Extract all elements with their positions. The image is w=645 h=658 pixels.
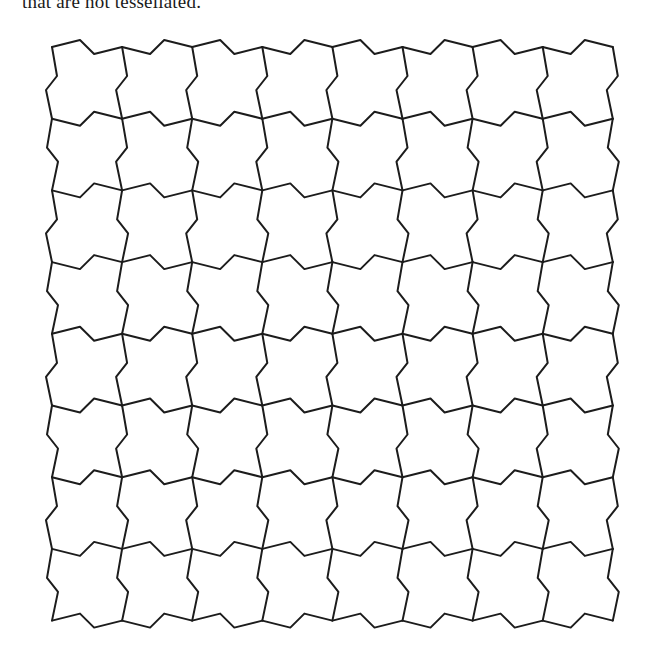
tile-edge-horizontal <box>543 255 613 269</box>
tile-edge-vertical <box>187 549 198 621</box>
tile-edge-vertical <box>256 47 267 119</box>
tile-edge-horizontal <box>332 614 402 628</box>
tile-edge-vertical <box>256 334 267 406</box>
tile-edge-horizontal <box>403 614 473 628</box>
tile-edge-vertical <box>397 119 408 191</box>
tile-edge-horizontal <box>122 614 192 628</box>
tile-edge-horizontal <box>332 399 402 413</box>
tile-edge-vertical <box>538 549 549 621</box>
tile-edge-horizontal <box>403 327 473 341</box>
tile-edge-vertical <box>116 334 127 406</box>
tile-edge-horizontal <box>543 542 613 556</box>
tile-edge-horizontal <box>192 399 262 413</box>
tile-edge-horizontal <box>473 542 543 556</box>
tile-edge-horizontal <box>543 614 613 628</box>
tile-edge-vertical <box>467 477 478 549</box>
tile-edge-vertical <box>397 47 408 119</box>
tile-edge-horizontal <box>543 40 613 54</box>
tile-edge-vertical <box>398 549 409 621</box>
tile-edge-horizontal <box>332 40 402 54</box>
tile-edge-horizontal <box>403 542 473 556</box>
tile-edge-horizontal <box>52 327 122 341</box>
tile-edge-horizontal <box>473 40 543 54</box>
tile-edge-vertical <box>467 334 478 406</box>
tile-edge-vertical <box>47 262 58 334</box>
tile-edge-horizontal <box>262 542 332 556</box>
tile-edge-horizontal <box>52 112 122 126</box>
tile-edge-horizontal <box>192 40 262 54</box>
tile-edge-horizontal <box>543 470 613 484</box>
tile-edge-horizontal <box>52 614 122 628</box>
tile-edge-horizontal <box>262 470 332 484</box>
tile-edge-vertical <box>537 406 548 478</box>
tile-edge-vertical <box>116 119 127 191</box>
tile-edge-horizontal <box>473 112 543 126</box>
tile-edge-horizontal <box>543 112 613 126</box>
tile-edge-horizontal <box>403 183 473 197</box>
tile-edge-vertical <box>326 47 337 119</box>
tile-edge-vertical <box>468 549 479 621</box>
tile-edge-vertical <box>46 47 57 119</box>
tile-edge-vertical <box>538 477 549 549</box>
tile-edge-vertical <box>326 334 337 406</box>
tile-edge-vertical <box>47 119 58 191</box>
tile-edge-vertical <box>256 119 267 191</box>
tile-edge-vertical <box>397 406 408 478</box>
tile-edge-vertical <box>607 477 618 549</box>
tile-edge-vertical <box>186 47 197 119</box>
tile-edge-horizontal <box>122 183 192 197</box>
tile-edge-horizontal <box>543 327 613 341</box>
tile-edge-vertical <box>257 262 268 334</box>
tile-edge-horizontal <box>52 40 122 54</box>
tile-edge-horizontal <box>332 327 402 341</box>
tile-edge-horizontal <box>122 255 192 269</box>
tile-edge-vertical <box>256 406 267 478</box>
tile-edge-horizontal <box>473 614 543 628</box>
tile-edge-vertical <box>117 262 128 334</box>
tile-edge-vertical <box>398 190 409 262</box>
tile-edge-horizontal <box>122 470 192 484</box>
tile-edge-horizontal <box>262 183 332 197</box>
tile-edge-vertical <box>116 47 127 119</box>
tile-edge-vertical <box>397 334 408 406</box>
tile-edge-vertical <box>398 477 409 549</box>
tile-edge-vertical <box>116 406 127 478</box>
tile-edge-vertical <box>186 190 197 262</box>
tile-edge-horizontal <box>192 614 262 628</box>
tile-edge-vertical <box>467 47 478 119</box>
tile-edge-horizontal <box>403 470 473 484</box>
tile-edge-vertical <box>468 406 479 478</box>
tile-edge-vertical <box>608 549 619 621</box>
tile-edge-horizontal <box>403 40 473 54</box>
tile-edge-vertical <box>187 262 198 334</box>
tile-edge-horizontal <box>473 399 543 413</box>
tile-edge-vertical <box>537 119 548 191</box>
tile-edge-vertical <box>327 549 338 621</box>
tile-edge-vertical <box>327 262 338 334</box>
tile-edge-vertical <box>187 119 198 191</box>
tile-edge-horizontal <box>332 470 402 484</box>
tile-edge-vertical <box>608 262 619 334</box>
tile-edge-vertical <box>186 334 197 406</box>
tile-edge-horizontal <box>262 112 332 126</box>
tile-edge-horizontal <box>473 183 543 197</box>
tile-edge-horizontal <box>192 542 262 556</box>
tile-edge-vertical <box>117 549 128 621</box>
tile-edge-vertical <box>257 190 268 262</box>
tile-edge-horizontal <box>262 327 332 341</box>
tile-edge-vertical <box>326 477 337 549</box>
tile-edge-vertical <box>607 334 618 406</box>
tile-edge-vertical <box>538 262 549 334</box>
tile-edge-vertical <box>327 406 338 478</box>
tile-edge-vertical <box>608 406 619 478</box>
tile-edge-horizontal <box>403 112 473 126</box>
tile-edge-horizontal <box>122 542 192 556</box>
tile-edge-vertical <box>46 477 57 549</box>
tile-edge-horizontal <box>192 255 262 269</box>
tile-edge-horizontal <box>543 183 613 197</box>
tile-edge-vertical <box>537 334 548 406</box>
tile-edge-horizontal <box>332 255 402 269</box>
tile-edge-vertical <box>117 477 128 549</box>
tile-edge-horizontal <box>403 255 473 269</box>
tile-edge-vertical <box>47 406 58 478</box>
